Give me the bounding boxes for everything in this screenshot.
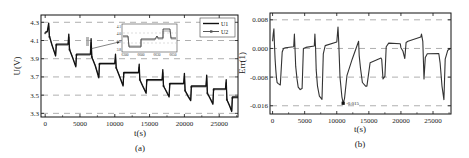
a-legend-label-u1: U1 xyxy=(221,21,228,27)
b-annotation: -0.015 xyxy=(342,101,360,106)
a-ytick-label: 3.9 xyxy=(30,55,39,63)
a-xtick-label: 5000 xyxy=(73,120,88,128)
b-xlabel: t(s) xyxy=(354,124,366,134)
a-xtick-label: 10000 xyxy=(106,120,124,128)
b-xtick-label: 5000 xyxy=(298,117,313,125)
b-ytick-label: -0.008 xyxy=(250,74,269,82)
a-legend-marker-u2 xyxy=(210,30,212,32)
b-ytick-label: 0.008 xyxy=(252,16,268,24)
b-annotation-label: -0.015 xyxy=(346,101,359,106)
panel-b-error-chart: 0.0080.000-0.008-0.016050001000015000200… xyxy=(237,13,451,149)
a-xtick-label: 0 xyxy=(43,120,47,128)
b-panel-label: (b) xyxy=(355,139,366,149)
a-inset-xtick: 6300 xyxy=(122,53,129,57)
a-xlabel: t(s) xyxy=(134,128,146,138)
a-inset-ytick: 4.0 xyxy=(117,32,122,36)
b-series-group xyxy=(273,27,451,103)
a-inset-xtick: 6630 xyxy=(154,53,161,57)
a-ytick-label: 3.5 xyxy=(30,92,39,100)
a-ylabel: U(V) xyxy=(12,57,22,76)
a-inset-xtick: 6600 xyxy=(138,53,145,57)
figure: 3.33.53.73.94.14.30500010000150002000025… xyxy=(0,0,469,158)
a-legend: U1 U2 xyxy=(200,18,235,37)
panel-a-voltage-chart: 3.33.53.73.94.14.30500010000150002000025… xyxy=(12,15,238,153)
a-inset-ytick: 4.1 xyxy=(117,25,122,29)
b-xtick-label: 10000 xyxy=(328,117,346,125)
a-ytick-label: 4.3 xyxy=(30,19,39,27)
a-xtick-label: 25000 xyxy=(210,120,228,128)
a-inset-arrow xyxy=(90,42,119,49)
b-ytick-label: -0.016 xyxy=(250,102,269,110)
a-ytick-label: 3.7 xyxy=(30,73,39,81)
b-xtick-label: 25000 xyxy=(424,117,442,125)
b-ytick-label: 0.000 xyxy=(252,45,268,53)
b-series-err xyxy=(273,27,451,103)
a-inset-frame xyxy=(122,24,177,52)
a-zoom-region-marker xyxy=(86,37,89,46)
a-legend-label-u2: U2 xyxy=(221,29,228,35)
b-ylabel: Err(1) xyxy=(237,52,247,74)
a-xtick-label: 15000 xyxy=(141,120,159,128)
a-xtick-label: 20000 xyxy=(176,120,194,128)
a-inset-ytick: 3.8 xyxy=(117,48,122,52)
a-ytick-label: 3.3 xyxy=(30,110,39,118)
b-annotation-marker xyxy=(342,102,345,105)
a-panel-label: (a) xyxy=(135,143,145,153)
a-inset-xtick: 6650 xyxy=(170,53,177,57)
b-axis-ticks: 0.0080.000-0.008-0.016050001000015000200… xyxy=(250,13,451,125)
b-xtick-label: 20000 xyxy=(392,117,410,125)
a-ytick-label: 4.1 xyxy=(30,37,39,45)
b-xtick-label: 0 xyxy=(271,117,275,125)
a-legend-box xyxy=(200,18,235,37)
